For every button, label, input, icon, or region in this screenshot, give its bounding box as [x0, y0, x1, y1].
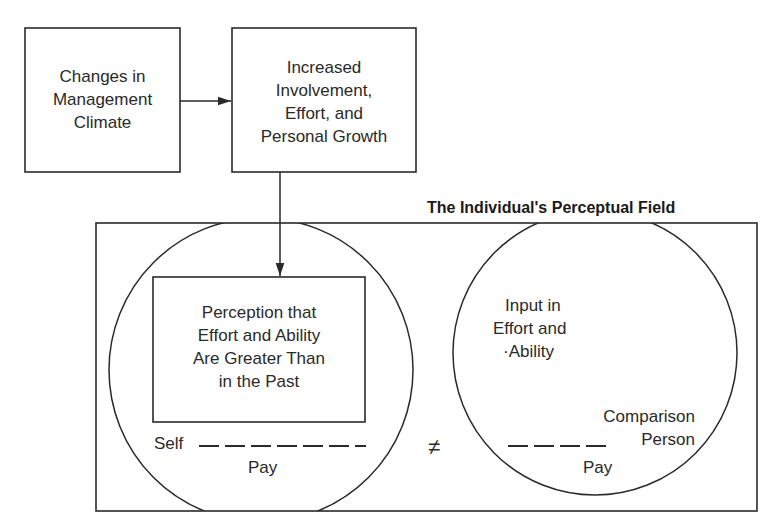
comparison-line-2: Person — [575, 428, 695, 451]
involvement-text: Increased Involvement, Effort, and Perso… — [232, 56, 416, 148]
management-line-2: Management — [25, 88, 180, 111]
involvement-line-2: Involvement, — [232, 79, 416, 102]
perception-line-4: in the Past — [153, 370, 365, 393]
perception-line-3: Are Greater Than — [153, 347, 365, 370]
input-line-2: Effort and — [493, 317, 566, 340]
input-line-3: ·Ability — [493, 340, 566, 363]
involvement-line-1: Increased — [232, 56, 416, 79]
perception-line-2: Effort and Ability — [153, 324, 365, 347]
perception-line-1: Perception that — [153, 301, 365, 324]
perception-text: Perception that Effort and Ability Are G… — [153, 301, 365, 393]
comparison-line-1: Comparison — [575, 405, 695, 428]
comparison-pay-label: Pay — [583, 458, 612, 478]
input-text: Input in Effort and ·Ability — [493, 294, 566, 363]
input-line-1: Input in — [493, 294, 566, 317]
self-label: Self — [154, 434, 183, 454]
self-pay-label: Pay — [248, 458, 277, 478]
management-line-3: Climate — [25, 111, 180, 134]
not-equal-symbol: ≠ — [428, 434, 440, 460]
management-climate-text: Changes in Management Climate — [25, 65, 180, 134]
management-line-1: Changes in — [25, 65, 180, 88]
involvement-line-4: Personal Growth — [232, 125, 416, 148]
involvement-line-3: Effort, and — [232, 102, 416, 125]
perceptual-field-title: The Individual's Perceptual Field — [427, 199, 675, 217]
comparison-person-text: Comparison Person — [575, 405, 695, 451]
